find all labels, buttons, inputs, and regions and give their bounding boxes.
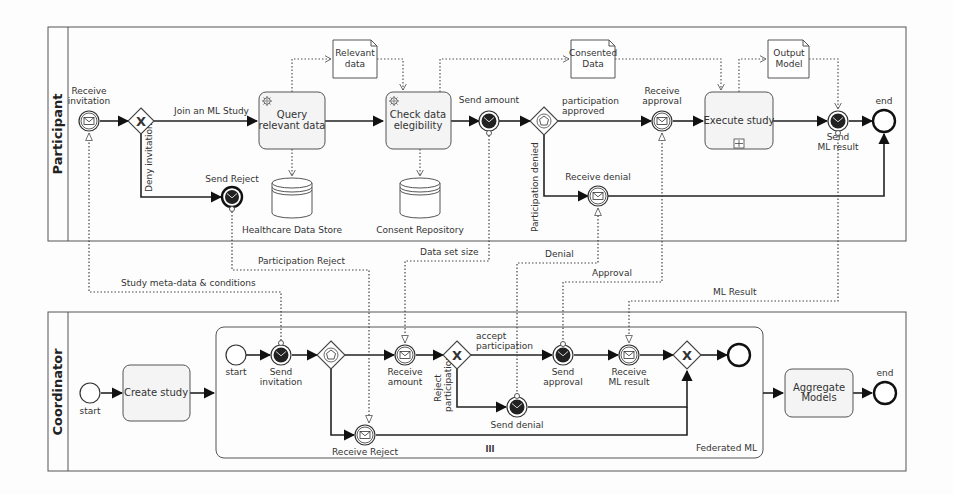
task-check-data-elegibility[interactable]: Check data elegibility [386, 92, 451, 149]
event-label: Receive [644, 86, 680, 96]
data-store-healthcare[interactable]: Healthcare Data Store [242, 178, 343, 235]
subprocess-label: Federated ML [696, 443, 757, 453]
event-send-amount[interactable]: Send amount [459, 95, 520, 131]
task-label: Models [801, 392, 836, 403]
message-label-approval: Approval [592, 268, 632, 278]
multi-instance-icon: III [486, 445, 495, 454]
envelope-filled-icon [227, 194, 237, 201]
event-label: approval [642, 96, 681, 106]
envelope-filled-icon [484, 118, 494, 125]
event-label: Receive denial [565, 172, 631, 182]
envelope-filled-icon [276, 352, 286, 359]
message-label-ml-result: ML Result [713, 287, 757, 297]
task-query-relevant-data[interactable]: Query relevant data [259, 92, 326, 149]
data-object-relevant-data[interactable]: Relevant data [333, 40, 377, 78]
event-label: ML result [608, 377, 650, 387]
message-label-denial: Denial [545, 249, 574, 259]
event-label: Receive [611, 367, 647, 377]
data-object-label: data [345, 59, 365, 69]
event-label: invitation [260, 377, 302, 387]
data-object-output-model[interactable]: Output Model [768, 40, 809, 78]
event-end-coordinator[interactable]: end [874, 368, 896, 404]
event-receive-denial[interactable]: Receive denial [565, 172, 631, 206]
event-label: end [876, 96, 893, 106]
data-object-label: Relevant [335, 48, 375, 58]
message-label-study-meta: Study meta-data & conditions [121, 278, 256, 288]
coordinator-sequence-flows [101, 355, 872, 435]
data-object-label: Consented [569, 48, 617, 58]
event-label: end [877, 368, 894, 378]
data-object-label: Model [775, 59, 802, 69]
flow-label-join: Join an ML Study [173, 106, 250, 116]
data-object-label: Data [582, 59, 604, 69]
event-send-reject[interactable]: Send Reject [205, 174, 259, 207]
event-label: Send [552, 367, 575, 377]
event-label: Send denial [491, 420, 544, 430]
flow-label-deny: Deny invitation [144, 123, 154, 192]
event-receive-reject[interactable]: Receive Reject [332, 425, 398, 457]
gateway-event-based-coordinator[interactable] [317, 341, 345, 369]
pool-label-coordinator: Coordinator [50, 348, 65, 436]
event-label: Receive [71, 86, 107, 96]
event-end-participant[interactable]: end [873, 96, 895, 132]
event-send-invitation[interactable]: Send invitation [260, 345, 302, 387]
envelope-filled-icon [512, 404, 522, 411]
message-label-participation-reject: Participation Reject [258, 256, 345, 266]
data-store-consent[interactable]: Consent Repository [376, 178, 464, 235]
event-label: Send [270, 367, 293, 377]
message-label-data-set-size: Data set size [420, 247, 479, 257]
event-start-subprocess[interactable]: start [226, 345, 247, 377]
task-aggregate-models[interactable]: Aggregate Models [785, 369, 853, 417]
event-label: amount [388, 377, 423, 387]
x-icon: X [452, 348, 462, 363]
pool-label-participant: Participant [50, 94, 65, 175]
flow-label-denied: Participation denied [530, 142, 540, 232]
flow-label-reject-1: Reject [433, 374, 443, 402]
data-store-label: Consent Repository [376, 225, 464, 235]
flow-label-accept-2: participation [476, 341, 533, 351]
event-label: start [80, 406, 101, 416]
envelope-icon [593, 193, 603, 200]
flow-label-accept-1: accept [476, 331, 507, 341]
event-label: Receive Reject [332, 447, 398, 457]
x-icon: X [682, 348, 692, 363]
gateway-event-based-participant[interactable] [530, 107, 558, 135]
data-store-label: Healthcare Data Store [242, 225, 343, 235]
task-label: Create study [124, 387, 188, 398]
task-label: elegibility [394, 120, 443, 131]
message-flows [89, 131, 841, 424]
envelope-icon [624, 352, 634, 359]
gateway-exclusive-join[interactable]: X [673, 341, 701, 369]
event-send-approval[interactable]: Send approval [543, 345, 582, 387]
data-object-consented-data[interactable]: Consented Data [569, 40, 617, 78]
envelope-icon [360, 432, 370, 439]
event-label: approval [543, 377, 582, 387]
event-send-denial[interactable]: Send denial [491, 397, 544, 430]
event-end-subprocess[interactable] [728, 344, 750, 366]
task-label: relevant data [259, 120, 326, 131]
flow-label-approved-2: approved [562, 106, 605, 116]
event-label: Send amount [459, 95, 520, 105]
event-receive-invitation[interactable]: Receive invitation [68, 86, 110, 131]
task-label: Query [277, 109, 307, 120]
event-label: start [226, 367, 247, 377]
x-icon: X [136, 114, 146, 129]
event-receive-approval[interactable]: Receive approval [642, 86, 681, 131]
envelope-filled-icon [833, 118, 843, 125]
task-label: Execute study [704, 115, 775, 126]
event-receive-ml-result[interactable]: Receive ML result [608, 345, 650, 387]
bpmn-diagram: Participant Coordinator Join an ML Study… [0, 0, 953, 495]
event-label: Send Reject [205, 174, 259, 184]
flow-label-approved-1: participation [562, 96, 619, 106]
envelope-icon [400, 352, 410, 359]
envelope-icon [84, 118, 94, 125]
event-receive-amount[interactable]: Receive amount [387, 345, 423, 387]
data-object-label: Output [773, 48, 805, 58]
task-label: Check data [390, 109, 446, 120]
event-label: invitation [68, 96, 110, 106]
event-start-coordinator[interactable]: start [80, 383, 101, 416]
task-create-study[interactable]: Create study [123, 365, 190, 421]
subprocess-execute-study[interactable]: Execute study [704, 92, 775, 149]
event-label: Receive [387, 367, 423, 377]
envelope-icon [657, 118, 667, 125]
